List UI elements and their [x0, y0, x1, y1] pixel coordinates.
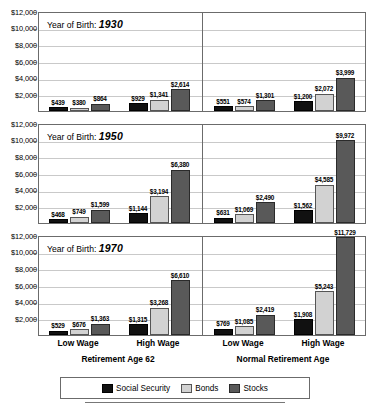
bar-value-label: $6,610 — [165, 273, 196, 279]
chart-panel-1930: $12,000$10,000$8,000$6,000$4,000$2,000Ye… — [0, 12, 369, 128]
bar-bonds — [150, 308, 169, 335]
x-tick-label-age62: High Wage — [123, 338, 193, 348]
bar-value-label: $864 — [85, 96, 116, 102]
panel-year-value: 1970 — [99, 242, 123, 254]
bar-social-security — [214, 329, 233, 335]
bar-value-label: $1,301 — [250, 93, 281, 99]
legend-swatch-bonds — [181, 384, 192, 393]
bar-social-security — [214, 106, 233, 111]
y-tick-mark — [32, 191, 37, 192]
y-tick-mark — [32, 207, 37, 208]
bar-stocks — [91, 324, 110, 335]
bar-stocks — [256, 100, 275, 111]
bar-bonds — [70, 108, 89, 111]
bar-stocks — [256, 202, 275, 223]
panel-year-label: Year of Birth: 1950 — [47, 130, 123, 142]
panel-year-label: Year of Birth: 1970 — [47, 242, 123, 254]
bar-bonds — [70, 217, 89, 223]
y-axis-labels: $12,000$10,000$8,000$6,000$4,000$2,000 — [0, 236, 38, 336]
bar-social-security — [129, 213, 148, 223]
legend-label-bonds: Bonds — [195, 384, 218, 393]
chart-container: $12,000$10,000$8,000$6,000$4,000$2,000Ye… — [0, 0, 369, 407]
y-tick-mark — [32, 253, 37, 254]
bar-bonds — [70, 329, 89, 335]
x-axis: Low WageHigh WageLow WageHigh WageRetire… — [0, 338, 369, 372]
chart-panel-1950: $12,000$10,000$8,000$6,000$4,000$2,000Ye… — [0, 124, 369, 240]
bar-social-security — [49, 107, 68, 111]
bar-value-label: $1,599 — [85, 202, 116, 208]
bar-value-label: $2,490 — [250, 195, 281, 201]
bar-social-security — [294, 101, 313, 111]
chart-legend: Social Security Bonds Stocks — [60, 377, 310, 399]
bar-stocks — [91, 104, 110, 111]
legend-label-stocks: Stocks — [243, 384, 268, 393]
panel-year-prefix: Year of Birth: — [47, 132, 96, 142]
legend-item-bonds: Bonds — [181, 384, 218, 393]
y-tick-mark — [32, 79, 37, 80]
legend-item-social-security: Social Security — [102, 384, 170, 393]
bar-stocks — [171, 89, 190, 111]
y-tick-mark — [32, 236, 37, 237]
y-tick-mark — [32, 141, 37, 142]
bar-value-label: $2,614 — [165, 82, 196, 88]
panel-year-value: 1930 — [99, 18, 123, 30]
y-tick-mark — [32, 124, 37, 125]
bar-bonds — [150, 196, 169, 223]
x-group-label: Retirement Age 62 — [43, 354, 193, 364]
legend-swatch-stocks — [229, 384, 240, 393]
bar-value-label: $11,729 — [330, 230, 361, 236]
panel-year-label: Year of Birth: 1930 — [47, 18, 123, 30]
y-tick-mark — [32, 62, 37, 63]
y-tick-mark — [32, 157, 37, 158]
bar-stocks — [171, 170, 190, 223]
bar-value-label: $2,419 — [250, 307, 281, 313]
group-divider — [202, 125, 203, 223]
y-tick-mark — [32, 95, 37, 96]
bar-value-label: $3,999 — [330, 70, 361, 76]
legend-label-social-security: Social Security — [116, 384, 170, 393]
panel-year-prefix: Year of Birth: — [47, 244, 96, 254]
bar-stocks — [336, 237, 355, 335]
bar-stocks — [91, 210, 110, 223]
plot-area: Year of Birth: 1970$529$676$1,363$1,315$… — [38, 236, 366, 336]
y-tick-mark — [32, 12, 37, 13]
bar-bonds — [235, 326, 254, 335]
x-tick-label-nra: High Wage — [288, 338, 358, 348]
group-divider — [202, 13, 203, 111]
bar-social-security — [129, 324, 148, 335]
bar-social-security — [49, 219, 68, 223]
y-tick-mark — [32, 29, 37, 30]
legend-swatch-social-security — [102, 384, 113, 393]
plot-area: Year of Birth: 1950$468$749$1,599$1,144$… — [38, 124, 366, 224]
x-tick-label-nra: Low Wage — [208, 338, 278, 348]
bar-stocks — [171, 280, 190, 335]
bar-social-security — [214, 218, 233, 223]
panel-year-value: 1950 — [99, 130, 123, 142]
bar-social-security — [294, 319, 313, 335]
bar-value-label: $6,380 — [165, 162, 196, 168]
bar-stocks — [336, 78, 355, 111]
y-tick-mark — [32, 319, 37, 320]
bar-social-security — [294, 210, 313, 223]
bar-bonds — [235, 106, 254, 111]
y-axis-labels: $12,000$10,000$8,000$6,000$4,000$2,000 — [0, 124, 38, 224]
bar-value-label: $1,363 — [85, 316, 116, 322]
bar-stocks — [256, 315, 275, 335]
bar-value-label: $9,972 — [330, 133, 361, 139]
legend-item-stocks: Stocks — [229, 384, 268, 393]
bar-bonds — [235, 214, 254, 223]
y-tick-mark — [32, 174, 37, 175]
y-tick-mark — [32, 303, 37, 304]
plot-area: Year of Birth: 1930$439$380$864$929$1,34… — [38, 12, 366, 112]
bar-social-security — [129, 103, 148, 111]
y-axis-labels: $12,000$10,000$8,000$6,000$4,000$2,000 — [0, 12, 38, 112]
bar-bonds — [315, 185, 334, 223]
bar-bonds — [315, 94, 334, 111]
chart-panel-1970: $12,000$10,000$8,000$6,000$4,000$2,000Ye… — [0, 236, 369, 352]
bar-social-security — [49, 331, 68, 335]
bar-bonds — [150, 100, 169, 111]
group-divider — [202, 237, 203, 335]
x-group-label: Normal Retirement Age — [208, 354, 358, 364]
panel-year-prefix: Year of Birth: — [47, 20, 96, 30]
y-tick-mark — [32, 286, 37, 287]
